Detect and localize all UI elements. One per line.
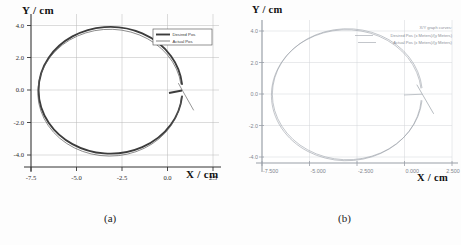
panel-a-x-ticklabel-0: -7.5 xyxy=(26,174,37,181)
panel-a-caption: (a) xyxy=(104,212,116,224)
figure-panel-b: Y / cm X / cm xyxy=(230,0,461,205)
panel-a-y-ticklabel-3: -2.0 xyxy=(14,119,25,126)
panel-a-y-axis-title: Y / cm xyxy=(22,4,54,16)
panel-a-x-ticklabel-3: 0.0 xyxy=(163,174,172,181)
panel-b-y-axis-title: Y / cm xyxy=(252,4,283,15)
panel-a-y-ticks xyxy=(27,26,31,156)
panel-b-y-ticklabel-3: -2.0 xyxy=(249,123,258,129)
panel-b-x-ticklabel-0: -7.500 xyxy=(263,168,278,174)
panel-a-legend-label-actual-pos: Actual Pos xyxy=(173,39,193,44)
panel-a-x-ticklabel-1: -5.0 xyxy=(71,174,82,181)
panel-b-y-ticklabel-4: -4.0 xyxy=(249,154,258,160)
figure-panel-a: Y / cm X / cm xyxy=(0,0,230,205)
panel-a-x-ticklabel-2: -2.5 xyxy=(117,174,128,181)
panel-b-caption: (b) xyxy=(338,212,351,224)
panel-b-legend-label-desired-pos: Desired Pos (x Meters)/(y Meters) xyxy=(391,33,453,38)
panel-b-x-ticklabel-2: -2.500 xyxy=(358,168,373,174)
panel-b-x-ticklabel-4: 2.500 xyxy=(446,168,460,174)
panel-a-y-ticklabel-1: 2.0 xyxy=(16,54,25,61)
panel-a-y-ticklabel-4: -4.0 xyxy=(14,151,25,158)
panel-b-legend-title: X/Y graph curves: xyxy=(420,25,452,30)
panel-a-legend[interactable]: Desired Pos Actual Pos xyxy=(153,29,212,45)
panel-b-x-axis-title: X / cm xyxy=(417,172,448,183)
panel-a-x-axis-title: X / cm xyxy=(186,168,218,180)
figure-root: Y / cm X / cm xyxy=(0,0,461,245)
panel-b-x-ticklabel-1: -5.000 xyxy=(311,168,326,174)
panel-b-y-ticklabel-0: 4.0 xyxy=(251,28,259,34)
panel-a-legend-label-desired-pos: Desired Pos xyxy=(173,32,196,37)
panel-b-legend-label-actual-pos: Actual Pos (x Meters)/(y Meters) xyxy=(393,40,452,45)
panel-a-y-ticklabel-0: 4.0 xyxy=(16,22,25,29)
panel-a-y-ticklabel-2: 0.0 xyxy=(16,86,25,93)
panel-b-y-ticklabel-2: 0.0 xyxy=(251,91,259,97)
panel-b-y-ticklabel-1: 2.0 xyxy=(251,60,259,66)
